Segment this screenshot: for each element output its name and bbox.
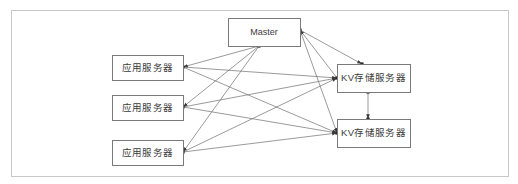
node-kv2[interactable]: KV存储服务器 xyxy=(338,120,411,148)
node-kv1[interactable]: KV存储服务器 xyxy=(338,65,411,93)
node-label-app3: 应用服务器 xyxy=(122,147,174,158)
node-app1[interactable]: 应用服务器 xyxy=(113,56,184,81)
node-label-kv2: KV存储服务器 xyxy=(341,127,406,138)
node-app3[interactable]: 应用服务器 xyxy=(113,141,184,166)
node-app2[interactable]: 应用服务器 xyxy=(113,96,184,121)
diagram-canvas: Master应用服务器应用服务器应用服务器KV存储服务器KV存储服务器 xyxy=(0,0,518,184)
node-label-app1: 应用服务器 xyxy=(122,62,174,73)
node-label-app2: 应用服务器 xyxy=(122,102,174,113)
node-label-master: Master xyxy=(250,27,278,37)
diagram-svg: Master应用服务器应用服务器应用服务器KV存储服务器KV存储服务器 xyxy=(0,0,518,184)
node-label-kv1: KV存储服务器 xyxy=(341,72,406,83)
node-master[interactable]: Master xyxy=(229,19,301,47)
